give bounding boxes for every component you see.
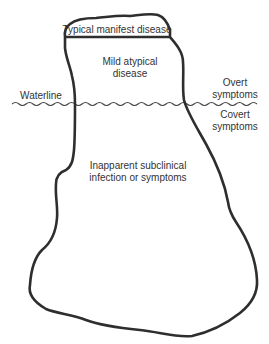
label-covert-line2: symptoms: [206, 121, 264, 133]
label-inapparent-line1: Inapparent subclinical: [82, 160, 194, 172]
label-mild-atypical-disease: Mild atypical disease: [90, 56, 170, 80]
label-overt-line2: symptoms: [206, 89, 264, 101]
waterline-wave: [12, 103, 257, 106]
label-covert-symptoms: Covert symptoms: [206, 109, 264, 133]
label-waterline: Waterline: [14, 90, 68, 102]
label-typical-manifest-disease: Typical manifest disease: [62, 24, 172, 36]
label-mild-line2: disease: [90, 68, 170, 80]
label-covert-line1: Covert: [206, 109, 264, 121]
label-inapparent-subclinical: Inapparent subclinical infection or symp…: [82, 160, 194, 184]
label-overt-symptoms: Overt symptoms: [206, 77, 264, 101]
label-mild-line1: Mild atypical: [90, 56, 170, 68]
label-overt-line1: Overt: [206, 77, 264, 89]
label-inapparent-line2: infection or symptoms: [82, 172, 194, 184]
